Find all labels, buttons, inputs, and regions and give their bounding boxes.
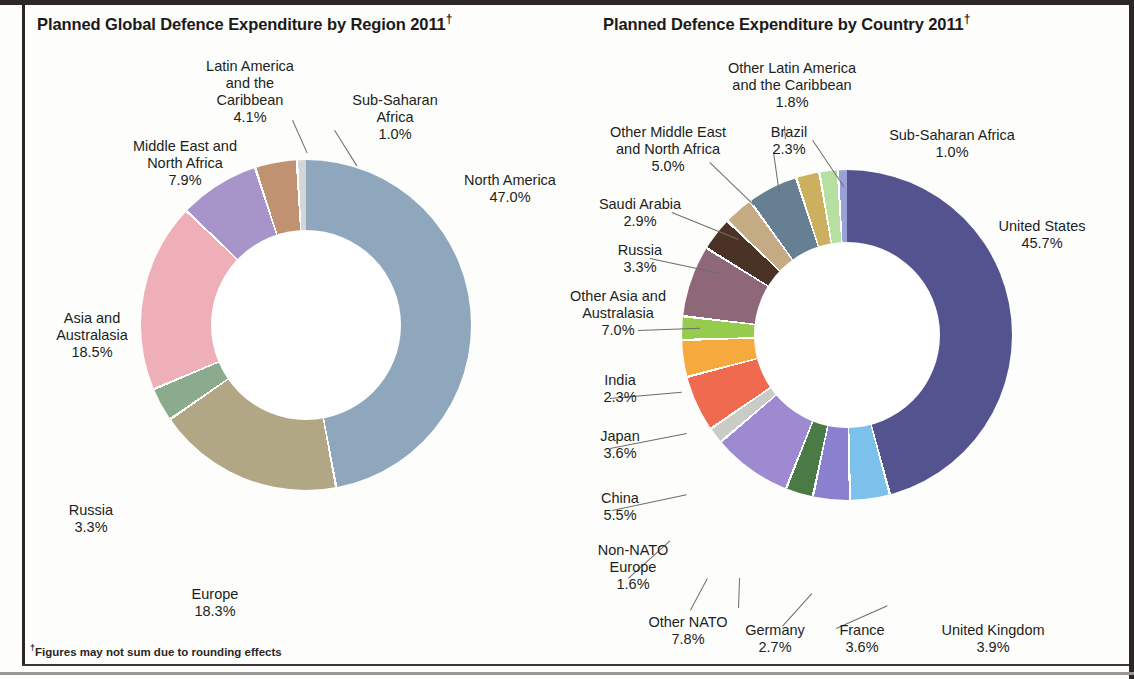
label-india-text: India	[604, 372, 635, 388]
label-other-latin-america-caribbean-pct: 1.8%	[692, 94, 892, 111]
label-china: China5.5%	[565, 490, 675, 524]
label-russia-region-text: Russia	[69, 502, 113, 518]
label-sub-saharan-africa-pct: 1.0%	[330, 126, 460, 143]
label-russia-region: Russia3.3%	[31, 502, 151, 536]
label-brazil: Brazil2.3%	[756, 124, 822, 158]
label-other-asia-australasia-text: Other Asia and Australasia	[570, 288, 666, 321]
label-russia-country: Russia3.3%	[565, 242, 715, 276]
label-other-nato-text: Other NATO	[648, 614, 727, 630]
label-middle-east-north-africa: Middle East and North Africa7.9%	[95, 138, 275, 189]
label-other-asia-australasia: Other Asia and Australasia7.0%	[538, 288, 698, 339]
label-other-middle-east-north-africa: Other Middle East and North Africa5.0%	[578, 124, 758, 175]
donut-chart-region	[141, 160, 471, 490]
label-other-latin-america-caribbean-text: Other Latin America and the Caribbean	[728, 60, 856, 93]
label-other-latin-america-caribbean: Other Latin America and the Caribbean1.8…	[692, 60, 892, 111]
label-russia-country-pct: 3.3%	[565, 259, 715, 276]
label-other-asia-australasia-pct: 7.0%	[538, 322, 698, 339]
label-russia-region-pct: 3.3%	[31, 519, 151, 536]
label-sub-saharan-africa-country-text: Sub-Saharan Africa	[889, 127, 1015, 143]
label-sub-saharan-africa: Sub-Saharan Africa1.0%	[330, 92, 460, 143]
label-latin-america-caribbean: Latin America and the Caribbean4.1%	[170, 58, 330, 126]
panel-region: Planned Global Defence Expenditure by Re…	[25, 0, 570, 679]
label-non-nato-europe-text: Non-NATO Europe	[598, 542, 668, 575]
label-latin-america-caribbean-pct: 4.1%	[170, 109, 330, 126]
panel-title-country-text: Planned Defence Expenditure by Country 2…	[603, 15, 964, 33]
donut-hole-country	[754, 242, 940, 428]
label-china-pct: 5.5%	[565, 507, 675, 524]
figure-root: Planned Global Defence Expenditure by Re…	[0, 0, 1134, 679]
label-china-text: China	[601, 490, 639, 506]
label-united-kingdom: United Kingdom3.9%	[908, 622, 1078, 656]
title-dagger-country: †	[964, 12, 971, 26]
label-france: France3.6%	[812, 622, 912, 656]
label-japan-pct: 3.6%	[565, 445, 675, 462]
label-japan-text: Japan	[600, 428, 640, 444]
label-brazil-pct: 2.3%	[756, 141, 822, 158]
panel-country: Planned Defence Expenditure by Country 2…	[570, 0, 1129, 679]
label-other-middle-east-north-africa-text: Other Middle East and North Africa	[610, 124, 726, 157]
title-dagger-region: †	[446, 12, 453, 26]
label-japan: Japan3.6%	[565, 428, 675, 462]
label-europe-text: Europe	[192, 586, 239, 602]
footnote-text: Figures may not sum due to rounding effe…	[35, 646, 282, 658]
label-saudi-arabia-text: Saudi Arabia	[599, 196, 681, 212]
label-latin-america-caribbean-text: Latin America and the Caribbean	[206, 58, 294, 108]
label-middle-east-north-africa-text: Middle East and North Africa	[133, 138, 237, 171]
page-title-country: Planned Defence Expenditure by Country 2…	[603, 12, 970, 34]
label-brazil-text: Brazil	[771, 124, 807, 140]
label-india-pct: 2.3%	[565, 389, 675, 406]
label-middle-east-north-africa-pct: 7.9%	[95, 172, 275, 189]
label-saudi-arabia: Saudi Arabia2.9%	[565, 196, 715, 230]
label-north-america-pct: 47.0%	[435, 189, 585, 206]
label-sub-saharan-africa-country: Sub-Saharan Africa1.0%	[862, 127, 1042, 161]
label-asia-australasia: Asia and Australasia18.5%	[17, 310, 167, 361]
label-france-pct: 3.6%	[812, 639, 912, 656]
label-asia-australasia-pct: 18.5%	[17, 344, 167, 361]
label-europe-pct: 18.3%	[155, 603, 275, 620]
label-sub-saharan-africa-text: Sub-Saharan Africa	[352, 92, 437, 125]
frame-right-rule	[1129, 5, 1134, 679]
label-non-nato-europe-pct: 1.6%	[568, 576, 698, 593]
label-non-nato-europe: Non-NATO Europe1.6%	[568, 542, 698, 593]
label-france-text: France	[839, 622, 884, 638]
label-germany-text: Germany	[745, 622, 805, 638]
page-title-region: Planned Global Defence Expenditure by Re…	[37, 12, 452, 34]
label-united-kingdom-text: United Kingdom	[941, 622, 1044, 638]
label-united-states-pct: 45.7%	[962, 235, 1122, 252]
panel-title-region-text: Planned Global Defence Expenditure by Re…	[37, 15, 446, 33]
label-saudi-arabia-pct: 2.9%	[565, 213, 715, 230]
label-united-states: United States45.7%	[962, 218, 1122, 252]
label-russia-country-text: Russia	[618, 242, 662, 258]
leader-line-germany	[738, 578, 740, 608]
footnote: †Figures may not sum due to rounding eff…	[30, 643, 282, 658]
label-india: India2.3%	[565, 372, 675, 406]
label-sub-saharan-africa-country-pct: 1.0%	[862, 144, 1042, 161]
label-north-america: North America47.0%	[435, 172, 585, 206]
donut-hole-region	[211, 230, 401, 420]
label-united-states-text: United States	[998, 218, 1085, 234]
label-north-america-text: North America	[464, 172, 556, 188]
label-asia-australasia-text: Asia and Australasia	[56, 310, 128, 343]
label-united-kingdom-pct: 3.9%	[908, 639, 1078, 656]
label-europe: Europe18.3%	[155, 586, 275, 620]
label-other-middle-east-north-africa-pct: 5.0%	[578, 158, 758, 175]
